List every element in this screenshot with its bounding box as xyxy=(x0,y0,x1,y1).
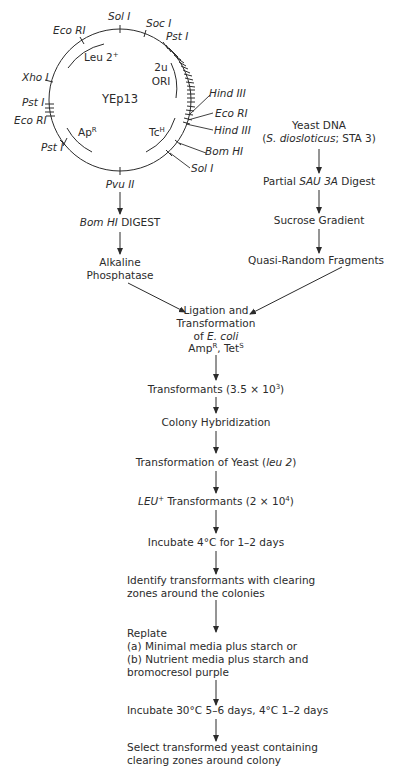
replate-title: Replate xyxy=(127,627,167,640)
site-label-hind-2: Hind III xyxy=(214,124,251,137)
site-label-soc: Soc I xyxy=(146,17,171,30)
quasi-random-fragments: Quasi-Random Fragments xyxy=(248,254,384,267)
gene-tet: TcH xyxy=(149,126,165,139)
gene-amp: ApR xyxy=(78,126,97,139)
site-label-xho: Xho I xyxy=(22,71,49,84)
site-label-sol-right: Sol I xyxy=(191,162,213,175)
colony-hybridization: Colony Hybridization xyxy=(162,416,271,429)
ligation-line-2: Transformation xyxy=(177,317,256,330)
site-label-pst-top: Pst I xyxy=(166,30,188,43)
gene-ori: ORI xyxy=(152,75,171,88)
leu-transformants: LEU+ Transformants (2 × 104) xyxy=(138,495,294,508)
identify-line-2: zones around the colonies xyxy=(127,587,265,600)
replate-option-a: (a) Minimal media plus starch or xyxy=(127,640,297,653)
yeast-transformation: Transformation of Yeast (leu 2) xyxy=(136,456,297,469)
replate-option-b: (b) Nutrient media plus starch and xyxy=(127,653,308,666)
transformants: Transformants (3.5 × 103) xyxy=(148,383,284,396)
site-label-pvu: Pvu II xyxy=(106,178,135,191)
incubate-4c: Incubate 4°C for 1–2 days xyxy=(148,536,284,549)
incubate-30c: Incubate 30°C 5–6 days, 4°C 1–2 days xyxy=(127,704,328,717)
identify-line-1: Identify transformants with clearing xyxy=(127,574,315,587)
select-line-1: Select transformed yeast containing xyxy=(127,741,318,754)
site-label-pst-left: Pst I xyxy=(22,96,44,109)
partial-digest: Partial SAU 3A Digest xyxy=(263,175,375,188)
alkaline-phosphatase-2: Phosphatase xyxy=(86,269,153,282)
replate-option-b-cont: bromocresol purple xyxy=(127,666,229,679)
ligation-line-1: Ligation and xyxy=(183,304,248,317)
site-label-eco-right: Eco RI xyxy=(215,107,248,120)
bamhi-digest: Bom HI DIGEST xyxy=(80,216,161,229)
site-label-hind-1: Hind III xyxy=(209,87,246,100)
site-label-sol-top: Sol I xyxy=(108,10,130,23)
sucrose-gradient: Sucrose Gradient xyxy=(274,214,365,227)
site-label-bom: Bom HI xyxy=(205,145,243,158)
gene-2u: 2u xyxy=(154,61,167,74)
site-label-pst-bottom: Pst I xyxy=(41,141,63,154)
select-line-2: clearing zones around colony xyxy=(127,754,281,767)
ligation-line-4: AmpR, TetS xyxy=(188,342,243,355)
alkaline-phosphatase-1: Alkaline xyxy=(99,256,140,269)
site-label-eco-top: Eco RI xyxy=(53,24,86,37)
yeast-dna-source: (S. diosloticus; STA 3) xyxy=(262,132,376,145)
plasmid-name: YEp13 xyxy=(102,93,138,106)
ori-arc xyxy=(171,63,177,98)
site-label-eco-left: Eco RI xyxy=(14,114,47,127)
yeast-dna-title: Yeast DNA xyxy=(292,119,346,132)
gene-leu: Leu 2+ xyxy=(84,51,119,64)
